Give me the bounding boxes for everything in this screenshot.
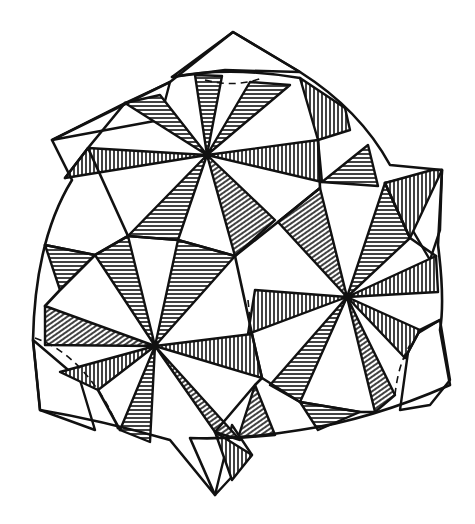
star-center-right bbox=[343, 293, 351, 301]
diagram-canvas bbox=[0, 0, 475, 524]
star-center-top bbox=[203, 151, 211, 159]
star-center-left bbox=[151, 342, 159, 350]
tiling-diagram bbox=[0, 0, 475, 524]
